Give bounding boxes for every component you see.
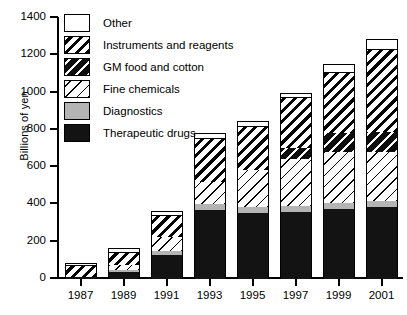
white-swatch: [64, 14, 90, 32]
x-tick-mark: [123, 279, 125, 286]
y-axis-label: 400: [0, 197, 46, 208]
x-axis-label: 1999: [317, 289, 361, 301]
bar-segment-fine-chemicals: [194, 181, 226, 204]
y-tick-mark: [50, 16, 58, 18]
y-tick-mark: [50, 202, 58, 204]
bar-1997[interactable]: [280, 17, 312, 278]
bar-segment-therapeutic-drugs: [194, 209, 226, 279]
bar-segment-diagnostics: [237, 206, 269, 213]
bar-segment-therapeutic-drugs: [237, 212, 269, 279]
bar-segment-other: [280, 93, 312, 98]
x-tick-mark: [295, 279, 297, 286]
legend-item-label: Instruments and reagents: [103, 39, 233, 51]
x-axis-label: 2001: [360, 289, 404, 301]
x-tick-mark: [209, 279, 211, 286]
fine-diagonal-hatch-swatch: [64, 80, 90, 98]
bar-segment-fine-chemicals: [323, 151, 355, 202]
black-swatch: [64, 124, 90, 142]
y-axis-label: 0: [0, 272, 46, 283]
bar-2001[interactable]: [366, 17, 398, 278]
legend-item-label: Therapeutic drugs: [103, 127, 196, 139]
x-axis-label: 1991: [145, 289, 189, 301]
bar-segment-instruments-and-reagents: [366, 49, 398, 132]
bar-segment-diagnostics: [280, 205, 312, 212]
bar-segment-other: [151, 211, 183, 216]
x-axis-label: 1995: [231, 289, 275, 301]
legend-item-other[interactable]: Other: [64, 12, 233, 34]
legend-item-diagnostics[interactable]: Diagnostics: [64, 100, 233, 122]
x-tick-mark: [166, 279, 168, 286]
stacked-bar-chart: Billions of yen 140012001000800600400200…: [0, 0, 407, 315]
bar-segment-therapeutic-drugs: [323, 208, 355, 279]
bar-segment-instruments-and-reagents: [280, 97, 312, 148]
bar-segment-gm-food-and-cotton: [280, 147, 312, 159]
bar-segment-other: [366, 39, 398, 49]
y-axis-label: 800: [0, 123, 46, 134]
bar-segment-instruments-and-reagents: [108, 252, 140, 265]
bar-segment-therapeutic-drugs: [280, 211, 312, 279]
bar-segment-instruments-and-reagents: [151, 215, 183, 237]
bar-segment-other: [108, 248, 140, 252]
bar-segment-therapeutic-drugs: [108, 271, 140, 279]
y-axis-label: 200: [0, 235, 46, 246]
gray-swatch: [64, 102, 90, 120]
bar-segment-gm-food-and-cotton: [366, 131, 398, 153]
bar-1999[interactable]: [323, 17, 355, 278]
y-axis-label: 1000: [0, 86, 46, 97]
y-tick-mark: [50, 165, 58, 167]
y-axis-label: 600: [0, 160, 46, 171]
bar-segment-fine-chemicals: [366, 151, 398, 200]
bar-segment-diagnostics: [194, 203, 226, 210]
bar-segment-instruments-and-reagents: [194, 138, 226, 182]
x-axis-label: 1987: [59, 289, 103, 301]
y-tick-mark: [50, 91, 58, 93]
x-tick-mark: [381, 279, 383, 286]
bar-segment-instruments-and-reagents: [237, 126, 269, 170]
x-tick-mark: [80, 279, 82, 286]
bar-segment-diagnostics: [323, 202, 355, 210]
bar-segment-instruments-and-reagents: [323, 72, 355, 133]
x-tick-mark: [338, 279, 340, 286]
y-tick-mark: [50, 240, 58, 242]
y-tick-mark: [50, 128, 58, 130]
bar-segment-fine-chemicals: [151, 236, 183, 251]
bar-segment-other: [65, 263, 97, 266]
legend-item-therapeutic-drugs[interactable]: Therapeutic drugs: [64, 122, 233, 144]
legend-item-label: Other: [103, 17, 132, 29]
bar-segment-gm-food-and-cotton: [323, 132, 355, 153]
legend-item-label: GM food and cotton: [103, 61, 204, 73]
bar-segment-fine-chemicals: [280, 158, 312, 206]
legend-item-gm-food-and-cotton[interactable]: GM food and cotton: [64, 56, 233, 78]
legend-item-label: Diagnostics: [103, 105, 162, 117]
legend-item-instruments-and-reagents[interactable]: Instruments and reagents: [64, 34, 233, 56]
legend-item-label: Fine chemicals: [103, 83, 180, 95]
y-axis-label: 1400: [0, 11, 46, 22]
bar-segment-other: [323, 64, 355, 73]
bar-segment-other: [237, 121, 269, 126]
bold-diagonal-hatch-swatch: [64, 36, 90, 54]
bar-segment-therapeutic-drugs: [366, 206, 398, 279]
x-axis-label: 1993: [188, 289, 232, 301]
bar-segment-fine-chemicals: [237, 169, 269, 207]
chart-legend: OtherInstruments and reagentsGM food and…: [64, 12, 233, 144]
bar-segment-therapeutic-drugs: [151, 254, 183, 279]
x-axis-label: 1989: [102, 289, 146, 301]
bar-1995[interactable]: [237, 17, 269, 278]
legend-item-fine-chemicals[interactable]: Fine chemicals: [64, 78, 233, 100]
bar-segment-instruments-and-reagents: [65, 265, 97, 277]
x-axis-label: 1997: [274, 289, 318, 301]
black-slash-swatch: [64, 58, 90, 76]
y-axis-label: 1200: [0, 48, 46, 59]
bar-segment-diagnostics: [366, 200, 398, 208]
y-tick-mark: [50, 53, 58, 55]
x-tick-mark: [252, 279, 254, 286]
bar-segment-fine-chemicals: [108, 264, 140, 271]
